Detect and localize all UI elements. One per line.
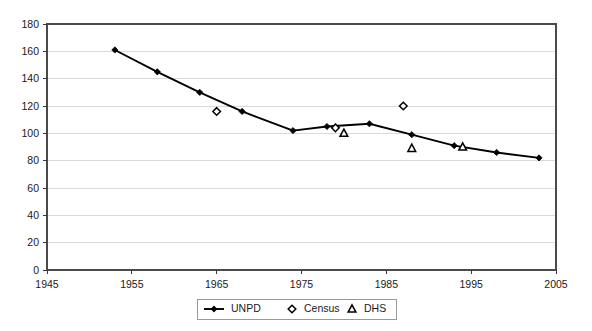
y-tick-label: 160: [21, 45, 39, 57]
legend-label: Census: [304, 302, 340, 314]
x-tick-label: 1945: [35, 278, 59, 290]
x-tick-label: 1955: [120, 278, 144, 290]
y-tick-label: 100: [21, 127, 39, 139]
y-tick-label: 120: [21, 100, 39, 112]
y-tick-label: 80: [27, 154, 39, 166]
x-tick-label: 1965: [205, 278, 229, 290]
y-tick-label: 0: [33, 264, 39, 276]
y-tick-label: 140: [21, 72, 39, 84]
x-tick-label: 1985: [375, 278, 399, 290]
line-chart: 020406080100120140160180 194519551965197…: [0, 0, 592, 331]
x-tick-label: 1975: [290, 278, 314, 290]
y-tick-label: 20: [27, 236, 39, 248]
y-tick-label: 40: [27, 209, 39, 221]
x-tick-label: 2005: [544, 278, 568, 290]
chart-legend: UNPDCensusDHS: [197, 299, 396, 319]
x-tick-label: 1995: [459, 278, 483, 290]
y-tick-label: 180: [21, 18, 39, 30]
legend-label: UNPD: [231, 302, 261, 314]
legend-label: DHS: [364, 302, 386, 314]
y-tick-label: 60: [27, 182, 39, 194]
